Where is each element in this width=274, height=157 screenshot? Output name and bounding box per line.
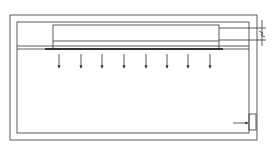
top-box bbox=[53, 25, 219, 49]
inlet-port bbox=[249, 114, 256, 130]
diagram-canvas bbox=[0, 0, 274, 157]
outer-frame bbox=[10, 15, 257, 140]
inner-frame bbox=[17, 22, 249, 133]
